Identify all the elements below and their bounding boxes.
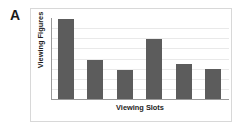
panel-label: A xyxy=(10,8,20,22)
bar xyxy=(58,19,74,99)
plot-area xyxy=(51,18,229,100)
bar xyxy=(176,64,192,99)
bar xyxy=(87,60,103,99)
x-axis-title: Viewing Slots xyxy=(51,103,229,113)
bar xyxy=(146,39,162,99)
bar xyxy=(205,69,221,99)
figure-card: Viewing Figures Viewing Slots xyxy=(30,8,232,122)
bar-series xyxy=(52,18,229,99)
y-axis-title: Viewing Figures xyxy=(36,9,46,71)
bar xyxy=(117,70,133,99)
